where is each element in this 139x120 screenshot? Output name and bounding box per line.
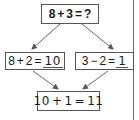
right-operand: 2 — [25, 55, 34, 67]
arrow-left-to-bottom-icon — [33, 71, 58, 89]
make-ten-step-box: 8 + 2 = 10 — [5, 52, 65, 70]
left-operand: 3 — [81, 55, 90, 67]
right-operand: 2 — [98, 55, 107, 67]
left-operand: 10 — [33, 95, 51, 107]
remainder-step-box: 3 − 2 = 1 — [75, 52, 134, 70]
operator: + — [51, 95, 64, 107]
final-sum-box: 10 + 1 = 11 — [37, 91, 100, 111]
operator: + — [56, 8, 65, 20]
equals-sign: = — [34, 55, 43, 67]
operator: − — [89, 55, 98, 67]
arrow-top-to-right-icon — [82, 24, 113, 49]
answer-blank: 1 — [116, 55, 128, 68]
right-operand: 3 — [65, 8, 74, 20]
equals-sign: = — [107, 55, 116, 67]
equals-sign: = — [74, 95, 87, 107]
operator: + — [16, 55, 25, 67]
answer-blank: 10 — [43, 55, 63, 68]
left-operand: 8 — [7, 55, 16, 67]
left-operand: 8 — [48, 8, 57, 20]
right-operand: 1 — [63, 95, 73, 107]
equals-sign: = — [74, 8, 83, 20]
final-answer: 11 — [86, 95, 104, 107]
arrow-right-to-bottom-icon — [83, 71, 108, 89]
problem-box: 8 + 3 = ? — [41, 4, 99, 24]
unknown-result: ? — [83, 8, 92, 20]
arrow-top-to-left-icon — [32, 24, 60, 49]
